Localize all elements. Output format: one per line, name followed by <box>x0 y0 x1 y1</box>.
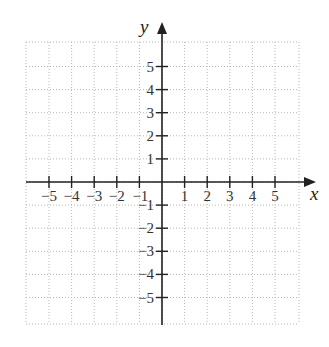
y-tick-label: −1 <box>138 197 154 213</box>
x-tick-label: 2 <box>203 188 211 204</box>
y-tick-label: −4 <box>138 266 154 282</box>
x-tick-label: 3 <box>226 188 234 204</box>
axes <box>26 22 316 325</box>
x-axis-label: x <box>309 183 319 204</box>
x-tick-label: −5 <box>41 188 57 204</box>
y-tick-label: 4 <box>147 82 155 98</box>
y-axis-label: y <box>138 16 149 37</box>
y-tick-label: −3 <box>138 243 154 259</box>
y-tick-label: −5 <box>138 290 154 306</box>
x-tick-label: −3 <box>86 188 102 204</box>
x-tick-label: 4 <box>249 188 257 204</box>
y-tick-label: −2 <box>138 220 154 236</box>
y-axis-arrow-icon <box>157 22 167 34</box>
y-tick-label: 3 <box>147 105 155 121</box>
x-tick-label: 1 <box>181 188 189 204</box>
x-tick-label: −4 <box>64 188 80 204</box>
y-tick-label: 2 <box>147 128 155 144</box>
coordinate-plane: −5−4−3−2−112345−5−4−3−2−112345 x y <box>0 0 329 347</box>
x-tick-label: −2 <box>109 188 125 204</box>
y-tick-label: 1 <box>147 151 155 167</box>
x-tick-label: 5 <box>271 188 279 204</box>
y-tick-label: 5 <box>147 59 155 75</box>
